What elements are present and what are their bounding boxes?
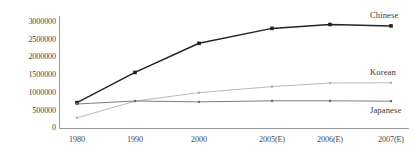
line-chart: 0500000100000015000002000000250000030000… bbox=[0, 0, 415, 153]
data-point-japanese-2005(E) bbox=[271, 100, 273, 102]
x-tick-2006(E): 2006(E) bbox=[300, 136, 360, 144]
y-tick-0: 0 bbox=[0, 124, 56, 132]
data-point-chinese-2006(E) bbox=[328, 23, 332, 27]
x-tick-2005(E): 2005(E) bbox=[242, 136, 302, 144]
data-point-chinese-1990 bbox=[133, 71, 137, 75]
series-label-korean: Korean bbox=[370, 68, 396, 77]
y-tick-1500000: 1500000 bbox=[0, 71, 56, 79]
y-tick-2000000: 2000000 bbox=[0, 53, 56, 61]
data-point-japanese-2007(E) bbox=[390, 100, 392, 102]
data-point-korean-2005(E) bbox=[271, 86, 273, 88]
data-point-chinese-2000 bbox=[197, 42, 201, 46]
data-point-japanese-2006(E) bbox=[329, 100, 331, 102]
data-point-japanese-1980 bbox=[76, 103, 78, 105]
data-point-japanese-2000 bbox=[198, 101, 200, 103]
x-tick-2000: 2000 bbox=[169, 136, 229, 144]
x-tick-2007(E): 2007(E) bbox=[361, 136, 415, 144]
data-point-chinese-2005(E) bbox=[270, 27, 274, 31]
data-point-korean-2000 bbox=[198, 92, 200, 94]
data-point-chinese-2007(E) bbox=[389, 24, 393, 28]
series-line-korean bbox=[77, 83, 391, 118]
chart-plot-area bbox=[0, 0, 415, 153]
x-tick-1990: 1990 bbox=[105, 136, 165, 144]
data-point-japanese-1990 bbox=[134, 100, 136, 102]
series-label-chinese: Chinese bbox=[370, 11, 398, 20]
data-point-korean-2007(E) bbox=[390, 82, 392, 84]
y-tick-2500000: 2500000 bbox=[0, 36, 56, 44]
series-line-chinese bbox=[77, 24, 391, 102]
series-label-japanese: Japanese bbox=[370, 106, 401, 115]
data-point-korean-2006(E) bbox=[329, 82, 331, 84]
y-tick-3000000: 3000000 bbox=[0, 18, 56, 26]
y-tick-500000: 500000 bbox=[0, 107, 56, 115]
y-tick-1000000: 1000000 bbox=[0, 89, 56, 97]
series-layer bbox=[75, 23, 393, 119]
data-point-korean-1980 bbox=[76, 117, 78, 119]
series-line-japanese bbox=[77, 101, 391, 104]
x-tick-1980: 1980 bbox=[47, 136, 107, 144]
